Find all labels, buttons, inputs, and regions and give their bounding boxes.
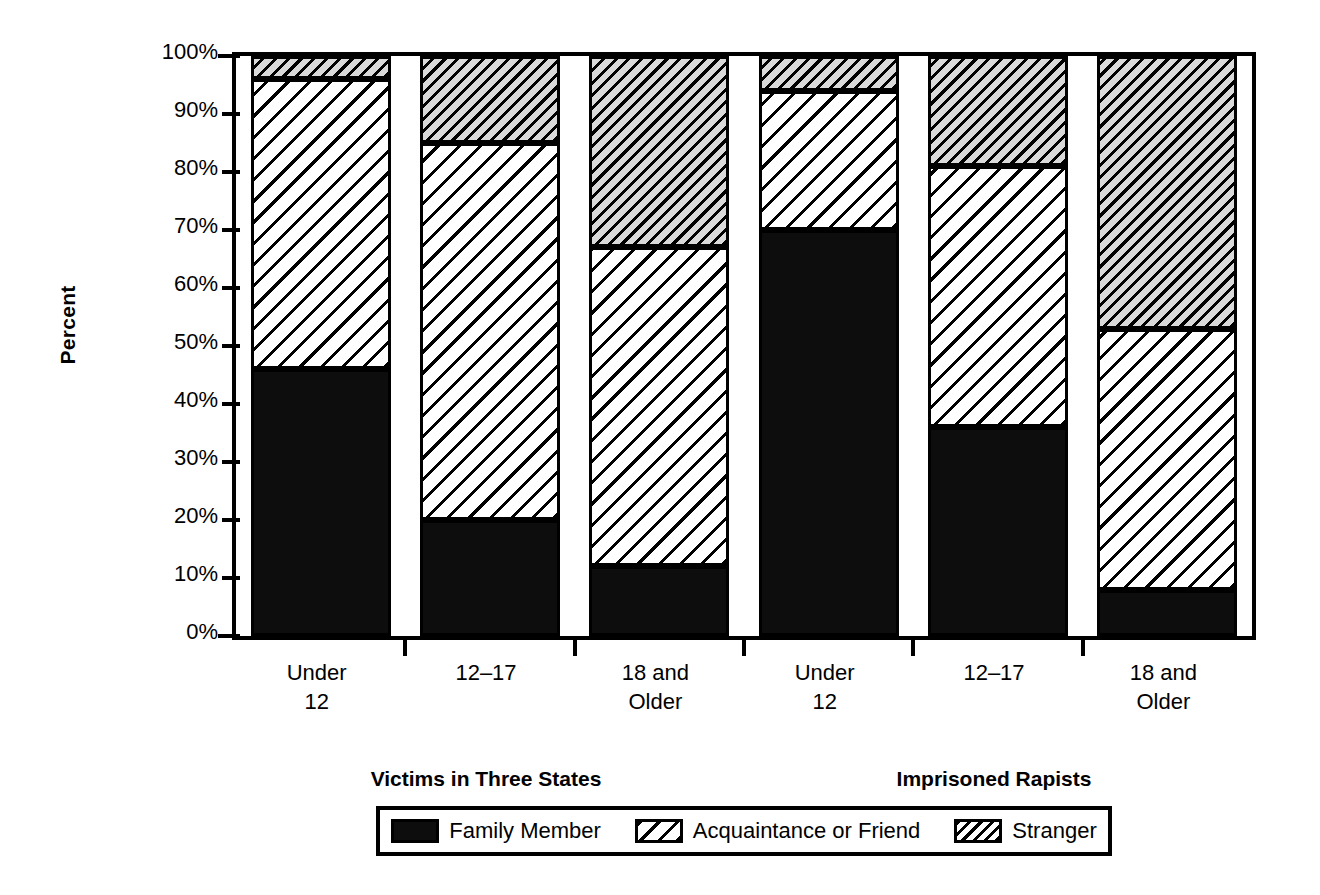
y-tick-10 (222, 576, 240, 580)
bar-5-segment-family-member[interactable] (1097, 590, 1237, 636)
y-tick-label-30: 30% (60, 445, 218, 471)
legend-item-acquaintance-or-friend: Acquaintance or Friend (635, 818, 920, 844)
y-tick-label-80: 80% (60, 155, 218, 181)
x-tick-2 (573, 636, 577, 656)
y-tick-label-20: 20% (60, 503, 218, 529)
bar-4-segment-acquaintance-or-friend[interactable] (928, 166, 1068, 427)
group-label-g0: Victims in Three States (226, 767, 746, 791)
legend-swatch-family-member-icon (391, 819, 439, 843)
y-tick-100 (218, 54, 240, 58)
bar-1-segment-family-member[interactable] (420, 520, 560, 636)
bar-2-segment-family-member[interactable] (589, 566, 729, 636)
bar-3-segment-family-member[interactable] (759, 230, 899, 636)
legend-label-family-member: Family Member (449, 818, 601, 844)
bar-0[interactable] (251, 56, 391, 636)
y-tick-label-60: 60% (60, 271, 218, 297)
legend-swatch-acquaintance-icon (635, 819, 683, 843)
bar-2-segment-stranger[interactable] (589, 56, 729, 247)
y-tick-90 (222, 112, 240, 116)
y-tick-label-10: 10% (60, 561, 218, 587)
bar-0-segment-stranger[interactable] (251, 56, 391, 79)
y-tick-60 (222, 286, 240, 290)
y-tick-label-100: 100% (60, 39, 218, 65)
bar-1-segment-stranger[interactable] (420, 56, 560, 143)
legend-item-family-member: Family Member (391, 818, 601, 844)
group-label-g1: Imprisoned Rapists (734, 767, 1254, 791)
y-axis-title: Percent (56, 245, 80, 405)
y-tick-label-90: 90% (60, 97, 218, 123)
y-tick-50 (222, 344, 240, 348)
y-tick-70 (222, 228, 240, 232)
bar-0-segment-acquaintance-or-friend[interactable] (251, 79, 391, 369)
bar-5-segment-acquaintance-or-friend[interactable] (1097, 329, 1237, 590)
legend-item-stranger: Stranger (954, 818, 1096, 844)
bar-4-segment-family-member[interactable] (928, 427, 1068, 636)
y-tick-label-70: 70% (60, 213, 218, 239)
bar-3[interactable] (759, 56, 899, 636)
plot-inner (236, 56, 1252, 636)
legend-label-stranger: Stranger (1012, 818, 1096, 844)
legend-label-acquaintance-or-friend: Acquaintance or Friend (693, 818, 920, 844)
y-tick-label-40: 40% (60, 387, 218, 413)
y-tick-30 (222, 460, 240, 464)
chart-canvas: Percent 100%90%80%70%60%50%40%30%20%10%0… (0, 0, 1320, 895)
bar-4-segment-stranger[interactable] (928, 56, 1068, 166)
x-tick-1 (403, 636, 407, 656)
y-tick-0 (218, 634, 240, 638)
y-tick-40 (222, 402, 240, 406)
bar-5[interactable] (1097, 56, 1237, 636)
bar-4[interactable] (928, 56, 1068, 636)
y-tick-label-0: 0% (60, 619, 218, 645)
bar-1[interactable] (420, 56, 560, 636)
bar-2-segment-acquaintance-or-friend[interactable] (589, 247, 729, 566)
bar-3-segment-stranger[interactable] (759, 56, 899, 91)
bar-3-segment-acquaintance-or-friend[interactable] (759, 91, 899, 230)
plot-area (232, 52, 1256, 640)
bar-0-segment-family-member[interactable] (251, 369, 391, 636)
x-tick-3 (742, 636, 746, 656)
y-tick-80 (222, 170, 240, 174)
bar-2[interactable] (589, 56, 729, 636)
legend-swatch-stranger-icon (954, 819, 1002, 843)
bar-1-segment-acquaintance-or-friend[interactable] (420, 143, 560, 520)
x-tick-5 (1081, 636, 1085, 656)
bar-5-segment-stranger[interactable] (1097, 56, 1237, 329)
y-tick-label-50: 50% (60, 329, 218, 355)
legend: Family Member Acquaintance or Friend Str… (376, 806, 1112, 856)
x-tick-4 (911, 636, 915, 656)
y-tick-20 (222, 518, 240, 522)
x-category-label-5: 18 and Older (1063, 658, 1263, 716)
